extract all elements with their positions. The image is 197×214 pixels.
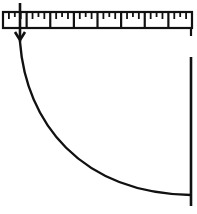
down-arrow-icon (15, 3, 25, 42)
diagram-canvas (0, 0, 197, 214)
ruler (3, 12, 192, 28)
arc-curve (20, 42, 191, 195)
